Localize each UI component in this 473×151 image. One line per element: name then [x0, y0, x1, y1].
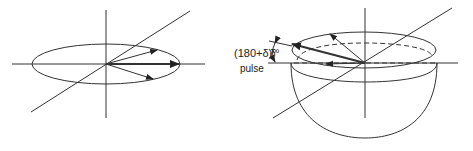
vector-lower — [106, 64, 153, 79]
equator-front — [291, 63, 437, 82]
vector-upper — [106, 50, 157, 64]
hemisphere-outline — [291, 63, 437, 138]
delta-tilt-line — [269, 41, 292, 46]
pulse-word-label: pulse — [240, 63, 264, 74]
nmr-pulse-diagram — [0, 0, 473, 151]
y-axis-diagonal — [31, 11, 190, 112]
right-diagram — [268, 8, 458, 138]
left-diagram — [12, 10, 205, 118]
delta-angle-label: δ° — [270, 48, 280, 59]
